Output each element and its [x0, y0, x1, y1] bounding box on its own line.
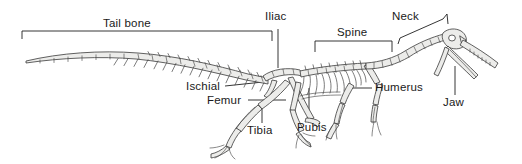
label-humerus: Humerus	[375, 82, 423, 94]
ischial-leader	[225, 82, 263, 86]
label-jaw: Jaw	[443, 97, 464, 109]
label-pubis: Pubis	[297, 122, 327, 134]
neck-vertebrae	[366, 34, 446, 69]
label-femur: Femur	[207, 95, 241, 107]
label-tibia: Tibia	[247, 125, 273, 137]
label-ischial: Ischial	[186, 81, 220, 93]
skull	[434, 29, 498, 79]
label-iliac: Iliac	[265, 11, 286, 23]
label-tail-bone: Tail bone	[103, 18, 151, 30]
label-neck: Neck	[392, 11, 419, 23]
skeleton-illustration: .ln { fill:none; stroke:#3a3a3a; stroke-…	[0, 0, 522, 164]
spine-bracket	[315, 41, 392, 52]
hind-limb	[210, 77, 320, 159]
label-spine: Spine	[337, 27, 367, 39]
tail-bone-bracket	[22, 31, 272, 41]
pelvis-iliac	[263, 69, 302, 81]
skeleton-diagram: .ln { fill:none; stroke:#3a3a3a; stroke-…	[0, 0, 522, 164]
